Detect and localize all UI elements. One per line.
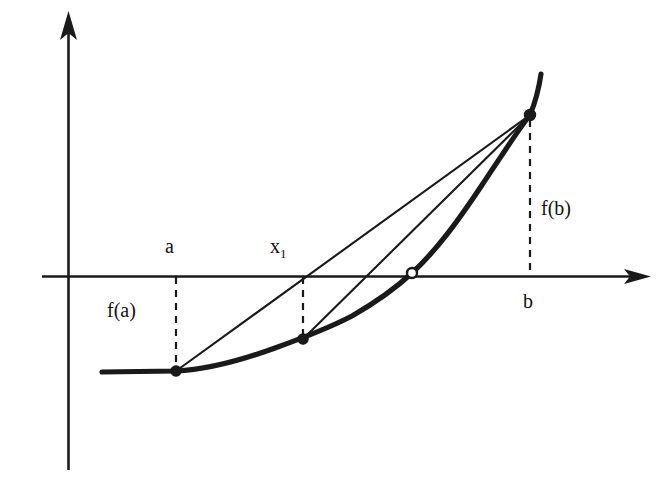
label-f-of-b: f(b) — [541, 198, 571, 218]
point-a — [171, 366, 181, 376]
label-b: b — [523, 291, 533, 311]
secant-line-x1-to-b — [303, 115, 530, 339]
label-x1: x1 — [270, 236, 287, 260]
label-a: a — [165, 236, 174, 256]
secant-line-a-to-b — [176, 115, 530, 371]
label-f-of-a: f(a) — [107, 300, 136, 320]
figure-canvas: a x1 f(a) f(b) b — [0, 0, 667, 486]
label-x1-subscript: 1 — [280, 246, 287, 261]
function-curve-group — [102, 74, 541, 372]
function-curve — [102, 74, 541, 372]
axes-group — [42, 11, 651, 470]
secant-lines-group — [176, 115, 530, 371]
point-x1 — [298, 334, 308, 344]
label-x1-base: x — [270, 235, 280, 257]
point-b — [524, 109, 535, 120]
point-root — [407, 268, 417, 278]
figure-svg — [0, 0, 667, 486]
